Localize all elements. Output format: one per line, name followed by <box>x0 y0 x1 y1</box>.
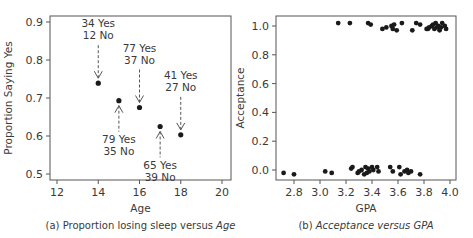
y-tick-label: 0.6 <box>26 130 44 143</box>
plot-frame <box>276 16 456 180</box>
data-point-accepted <box>400 21 405 26</box>
x-tick-label: 16 <box>133 186 147 199</box>
data-point-group: 41 Yes27 No <box>164 69 198 138</box>
y-axis-label: Acceptance <box>234 67 246 128</box>
x-tick-label: 3.0 <box>311 186 329 199</box>
x-tick-label: 3.6 <box>389 186 407 199</box>
y-tick-label: 0.8 <box>26 54 44 67</box>
data-point-group: 79 Yes35 No <box>102 98 136 157</box>
x-tick-label: 3.4 <box>363 186 381 199</box>
data-point-rejected <box>409 169 414 174</box>
x-tick-label: 20 <box>215 186 229 199</box>
x-tick-label: 12 <box>50 186 64 199</box>
data-point-rejected <box>359 168 364 173</box>
x-axis-label: Age <box>130 202 150 214</box>
y-tick-label: 0.0 <box>252 164 270 177</box>
data-point-accepted <box>384 25 389 30</box>
data-point-rejected <box>376 169 381 174</box>
caption: (a) Proportion losing sleep versus Age <box>46 220 236 231</box>
data-point-rejected <box>292 172 297 177</box>
y-tick-label: 1.0 <box>252 20 270 33</box>
data-point-group: 65 Yes39 No <box>143 124 177 183</box>
annotation-no: 27 No <box>165 81 196 93</box>
data-point-rejected <box>371 168 376 173</box>
data-point <box>178 132 183 137</box>
annotation-no: 35 No <box>103 145 134 157</box>
y-tick-label: 0.5 <box>26 168 44 181</box>
data-point <box>137 105 142 110</box>
data-point-rejected <box>390 169 395 174</box>
y-axis-label: Proportion Saying Yes <box>2 41 14 154</box>
y-tick-label: 0.6 <box>252 78 270 91</box>
data-point-rejected <box>329 170 334 175</box>
chart-b-acceptance-vs-gpa: 0.00.20.40.60.81.02.83.03.23.43.63.84.0G… <box>234 16 459 231</box>
data-point-rejected <box>388 165 393 170</box>
data-point-rejected <box>398 172 403 177</box>
data-point-rejected <box>350 165 355 170</box>
annotation-yes: 34 Yes <box>81 17 115 29</box>
x-axis-label: GPA <box>356 202 378 214</box>
y-tick-label: 0.4 <box>252 106 270 119</box>
annotation-yes: 79 Yes <box>102 133 136 145</box>
data-point-rejected <box>281 170 286 175</box>
x-tick-label: 14 <box>91 186 105 199</box>
chart-a-proportion-vs-age: 0.50.60.70.80.91214161820AgeProportion S… <box>2 16 235 231</box>
annotation-yes: 77 Yes <box>123 42 157 54</box>
annotation-yes: 65 Yes <box>143 159 177 171</box>
annotation-yes: 41 Yes <box>164 69 198 81</box>
x-tick-label: 3.8 <box>415 186 433 199</box>
figure: 0.50.60.70.80.91214161820AgeProportion S… <box>0 0 473 238</box>
data-point-rejected <box>418 172 423 177</box>
data-point-accepted <box>394 28 399 33</box>
data-point-accepted <box>444 26 449 31</box>
data-point <box>158 124 163 129</box>
y-tick-label: 0.9 <box>26 16 44 29</box>
data-point-accepted <box>336 21 341 26</box>
data-point-rejected <box>323 169 328 174</box>
x-tick-label: 3.2 <box>337 186 355 199</box>
data-point-rejected <box>375 165 380 170</box>
x-tick-label: 2.8 <box>285 186 303 199</box>
x-tick-label: 4.0 <box>441 186 459 199</box>
data-point <box>116 98 121 103</box>
annotation-no: 39 No <box>145 171 176 183</box>
data-point-group: 34 Yes12 No <box>81 17 115 86</box>
data-point-accepted <box>418 22 423 27</box>
data-point-accepted <box>410 28 415 33</box>
caption: (b) Acceptance versus GPA <box>298 220 433 231</box>
data-point <box>96 81 101 86</box>
data-point-accepted <box>392 22 397 27</box>
data-point-accepted <box>368 22 373 27</box>
y-tick-label: 0.7 <box>26 92 44 105</box>
y-tick-label: 0.8 <box>252 49 270 62</box>
annotation-no: 37 No <box>124 54 155 66</box>
data-point-rejected <box>397 165 402 170</box>
y-tick-label: 0.2 <box>252 135 270 148</box>
x-tick-label: 18 <box>174 186 188 199</box>
data-point-accepted <box>348 21 353 26</box>
annotation-no: 12 No <box>83 29 114 41</box>
data-point-group: 77 Yes37 No <box>123 42 157 111</box>
